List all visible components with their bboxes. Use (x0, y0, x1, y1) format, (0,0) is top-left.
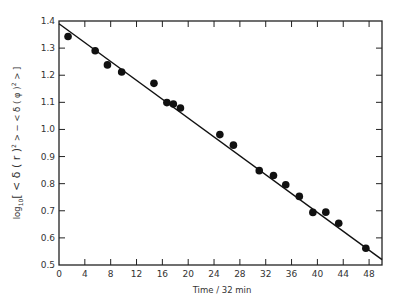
data-point (282, 181, 290, 189)
data-point (255, 167, 263, 175)
x-tick-label: 24 (208, 269, 220, 279)
data-point (296, 193, 304, 201)
x-tick-label: 36 (286, 269, 298, 279)
y-axis-title-group: log10[ < δ ( r )2 > − < δ ( φ )2 > ] (10, 67, 24, 220)
x-tick-label: 40 (312, 269, 324, 279)
y-tick-label: 0.7 (41, 206, 55, 216)
data-point (362, 244, 370, 252)
x-tick-label: 12 (131, 269, 142, 279)
data-point (270, 172, 278, 180)
y-tick-label: 1.4 (41, 16, 56, 26)
plot-frame (59, 21, 382, 265)
y-tick-labels: 0.50.60.70.80.91.01.11.21.31.4 (41, 16, 56, 270)
x-tick-label: 28 (234, 269, 246, 279)
data-point (163, 99, 171, 107)
fit-line (59, 24, 382, 260)
data-point (150, 80, 158, 88)
data-points (64, 33, 369, 252)
data-point (177, 104, 185, 112)
y-tick-label: 0.6 (41, 233, 56, 243)
data-point (118, 68, 126, 76)
scatter-plot: 04812162024283236404448 0.50.60.70.80.91… (0, 0, 404, 303)
y-tick-label: 0.9 (41, 152, 56, 162)
y-tick-label: 0.8 (41, 179, 56, 189)
y-tick-label: 1.2 (41, 70, 55, 80)
y-axis-title: log10[ < δ ( r )2 > − < δ ( φ )2 > ] (10, 67, 24, 220)
axis-ticks (59, 21, 382, 265)
x-tick-label: 16 (157, 269, 169, 279)
chart-container: 04812162024283236404448 0.50.60.70.80.91… (0, 0, 404, 303)
y-tick-label: 1.0 (41, 124, 56, 134)
x-tick-label: 44 (338, 269, 350, 279)
data-point (335, 219, 343, 227)
data-point (91, 47, 99, 55)
x-tick-label: 20 (182, 269, 194, 279)
x-tick-label: 8 (108, 269, 114, 279)
data-point (230, 141, 238, 149)
y-tick-label: 1.3 (41, 43, 55, 53)
x-tick-labels: 04812162024283236404448 (56, 269, 375, 279)
fit-line-segment (59, 24, 382, 260)
plot-border (59, 21, 382, 265)
x-axis-title: Time / 32 min (192, 285, 252, 295)
x-tick-label: 4 (82, 269, 88, 279)
data-point (309, 209, 317, 217)
data-point (64, 33, 72, 41)
data-point (104, 61, 112, 69)
x-tick-label: 48 (363, 269, 375, 279)
x-tick-label: 32 (260, 269, 271, 279)
x-tick-label: 0 (56, 269, 62, 279)
data-point (170, 100, 178, 108)
y-tick-label: 1.1 (41, 97, 55, 107)
data-point (216, 131, 224, 139)
data-point (322, 208, 330, 216)
y-tick-label: 0.5 (41, 260, 55, 270)
